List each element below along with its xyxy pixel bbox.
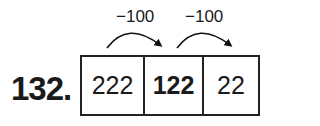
cell-2: 122 — [143, 57, 202, 114]
number-boxes: 222 122 22 — [80, 55, 260, 116]
cell-3: 22 — [202, 57, 258, 114]
cell-1: 222 — [82, 57, 143, 114]
